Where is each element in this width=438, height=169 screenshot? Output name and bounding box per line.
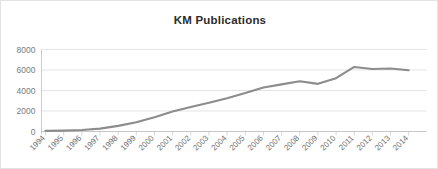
x-tick-label: 2009 [300, 133, 319, 152]
x-tick-label: 2014 [391, 133, 410, 152]
x-tick-label: 1995 [46, 133, 65, 152]
x-tick-label: 2012 [355, 133, 374, 152]
x-axis-tickmarks [46, 132, 409, 136]
y-tick-label: 8000 [17, 45, 36, 55]
x-tick-label: 1996 [64, 133, 83, 152]
x-tick-label: 2010 [319, 133, 338, 152]
chart-container: KM Publications 02000400060008000 199419… [0, 0, 438, 169]
x-tick-label: 2008 [282, 133, 301, 152]
data-series [46, 67, 409, 131]
x-tick-label: 2011 [337, 133, 356, 152]
chart-plot-area: 02000400060008000 1994199519961997199819… [1, 1, 438, 169]
x-tick-label: 2002 [173, 133, 192, 152]
x-tick-label: 2006 [246, 133, 265, 152]
y-tick-label: 6000 [17, 65, 36, 75]
x-tick-label: 1997 [82, 133, 101, 152]
x-tick-label: 1999 [119, 133, 138, 152]
x-tick-label: 1998 [101, 133, 120, 152]
gridlines [42, 50, 427, 132]
x-axis-tick-labels: 1994199519961997199819992000200120022003… [28, 133, 411, 152]
y-tick-label: 2000 [17, 106, 36, 116]
x-tick-label: 2005 [228, 133, 247, 152]
x-tick-label: 2003 [191, 133, 210, 152]
y-tick-label: 4000 [17, 86, 36, 96]
axis-lines [42, 50, 427, 135]
y-tick-label: 0 [31, 127, 36, 137]
x-tick-label: 2001 [155, 133, 174, 152]
x-tick-label: 2007 [264, 133, 283, 152]
series-line [46, 67, 409, 131]
x-tick-label: 2000 [137, 133, 156, 152]
x-tick-label: 2004 [210, 133, 229, 152]
x-tick-label: 2013 [373, 133, 392, 152]
y-axis-tick-labels: 02000400060008000 [17, 45, 36, 137]
